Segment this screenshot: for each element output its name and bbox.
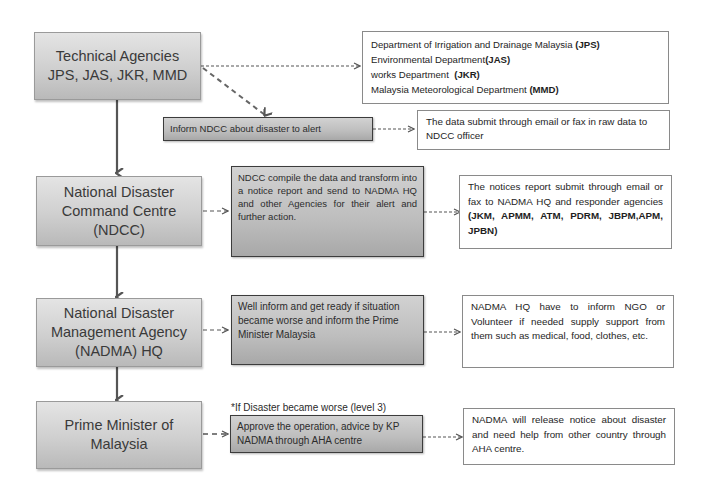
notice-report-text: The notices report submit through email …	[468, 181, 663, 207]
ndcc-line-2: Command Centre	[62, 202, 176, 221]
level3-caption-text: *If Disaster became worse (level 3)	[231, 402, 386, 413]
ngo-note: NADMA HQ have to inform NGO or Volunteer…	[462, 295, 674, 368]
ndcc-compile-box: NDCC compile the data and transform into…	[231, 166, 424, 257]
nadma-inform-text: Well inform and get ready if situation b…	[238, 301, 400, 340]
nadma-inform-box: Well inform and get ready if situation b…	[231, 295, 424, 365]
nadma-line-1: National Disaster	[51, 304, 187, 323]
nadma-line-3: (NADMA) HQ	[51, 342, 187, 361]
aha-text: NADMA will release notice about disaster…	[472, 414, 666, 454]
pm-approve-box: Approve the operation, advice by KP NADM…	[230, 415, 423, 453]
technical-agencies-box: Technical Agencies JPS, JAS, JKR, MMD	[34, 32, 201, 100]
ndcc-line-3: (NDCC)	[62, 221, 176, 240]
level3-caption: *If Disaster became worse (level 3)	[231, 402, 386, 413]
ndcc-line-1: National Disaster	[62, 183, 176, 202]
agency-line-jps: Department of Irrigation and Drainage Ma…	[371, 37, 660, 52]
responder-agencies-list: (JKM, APMM, ATM, PDRM, JBPM,APM, JPBN)	[468, 210, 663, 236]
agency-line-jas: Environmental Department(JAS)	[371, 52, 660, 67]
prime-minister-box: Prime Minister of Malaysia	[36, 401, 202, 469]
technical-agencies-subtitle: JPS, JAS, JKR, MMD	[48, 66, 187, 85]
nadma-line-2: Management Agency	[51, 323, 187, 342]
ngo-text: NADMA HQ have to inform NGO or Volunteer…	[471, 301, 665, 341]
ndcc-box: National Disaster Command Centre (NDCC)	[36, 176, 202, 246]
raw-data-text: The data submit through email or fax in …	[426, 116, 647, 141]
agency-line-mmd: Malaysia Meteorological Department (MMD)	[371, 82, 660, 97]
ndcc-compile-text: NDCC compile the data and transform into…	[238, 172, 417, 222]
notice-report-note: The notices report submit through email …	[459, 175, 672, 249]
dashed-arrow-to-inform-box	[203, 68, 265, 115]
nadma-box: National Disaster Management Agency (NAD…	[36, 298, 202, 367]
inform-ndcc-text: Inform NDCC about disaster to alert	[170, 123, 321, 134]
prime-minister-line-1: Prime Minister of	[65, 416, 174, 435]
technical-agencies-title: Technical Agencies	[48, 47, 187, 66]
prime-minister-line-2: Malaysia	[65, 435, 174, 454]
inform-ndcc-box: Inform NDCC about disaster to alert	[163, 117, 373, 141]
agency-line-jkr: works Department (JKR)	[371, 67, 660, 82]
raw-data-note: The data submit through email or fax in …	[417, 110, 670, 150]
agency-list-note: Department of Irrigation and Drainage Ma…	[362, 31, 669, 104]
pm-approve-text: Approve the operation, advice by KP NADM…	[237, 421, 399, 446]
aha-note: NADMA will release notice about disaster…	[463, 408, 675, 465]
